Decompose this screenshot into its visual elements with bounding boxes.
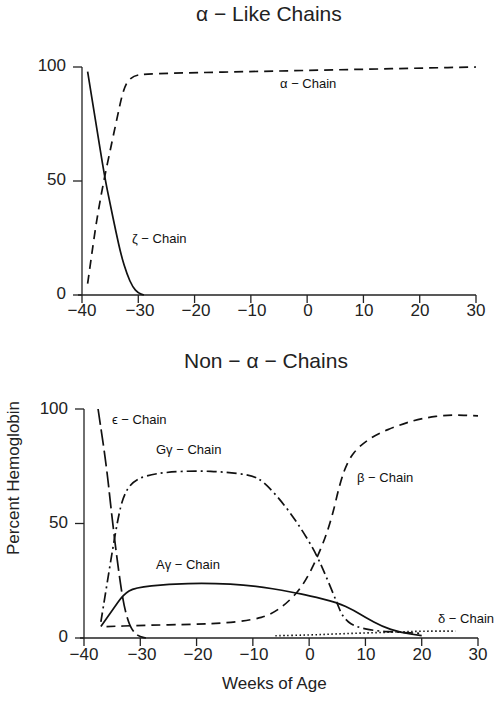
series-line-ζ	[88, 72, 144, 295]
plot-area	[0, 0, 504, 705]
series-line-ε	[98, 409, 146, 638]
series-line-gγ	[101, 471, 422, 633]
series-line-aγ	[101, 583, 422, 635]
hemoglobin-chain-figure: α − Like Chains Non − α − Chains Percent…	[0, 0, 504, 705]
series-line-β	[107, 415, 478, 626]
series-line-α	[88, 67, 476, 284]
series-line-δ	[275, 631, 455, 636]
